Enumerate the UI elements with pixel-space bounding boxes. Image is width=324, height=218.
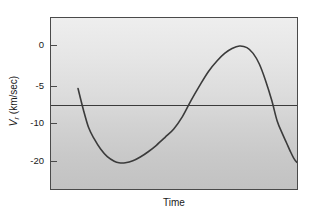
plot-canvas <box>51 18 298 190</box>
radial-velocity-chart: 0 -5 -10 -20 Vr (km/sec) Time <box>0 0 324 218</box>
y-axis-label-units: (km/sec) <box>8 76 19 114</box>
y-tick-m10 <box>50 123 57 124</box>
y-axis-label-symbol: V <box>8 119 19 126</box>
plot-area <box>50 17 298 190</box>
x-axis-label: Time <box>50 197 298 208</box>
y-tick-m5 <box>50 86 57 87</box>
y-tick-label-m20: -20 <box>10 156 44 166</box>
radial-velocity-curve <box>78 46 298 163</box>
y-tick-label-0: 0 <box>10 40 44 50</box>
y-tick-label-0-box: 0 <box>10 40 44 50</box>
y-axis-label: Vr (km/sec) <box>8 56 20 146</box>
y-tick-label-m20-box: -20 <box>10 156 44 166</box>
y-tick-0 <box>50 45 57 46</box>
y-tick-m20 <box>50 161 57 162</box>
